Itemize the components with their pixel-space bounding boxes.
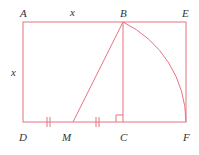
right-angle-marker-C: [116, 115, 123, 122]
point-label-A: A: [20, 8, 27, 19]
point-label-C: C: [120, 132, 127, 143]
golden-rectangle-diagram: [0, 0, 199, 155]
point-label-E: E: [182, 8, 189, 19]
segment-MB: [73, 22, 123, 122]
point-label-D: D: [19, 132, 27, 143]
outer-rectangle-ADFE: [23, 22, 186, 122]
point-label-F: F: [183, 132, 190, 143]
side-label-top-x: x: [70, 7, 75, 18]
arc-BF: [123, 22, 186, 122]
point-label-M: M: [62, 132, 71, 143]
side-label-left-x: x: [11, 67, 16, 78]
point-label-B: B: [120, 8, 127, 19]
